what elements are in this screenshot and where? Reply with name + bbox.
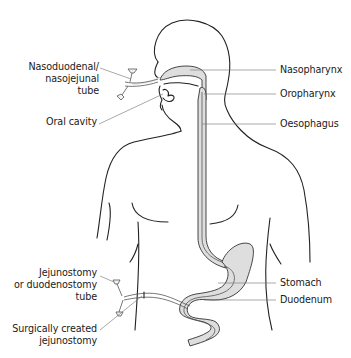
- label-line: Oral cavity: [46, 116, 97, 128]
- right-torso-outline: [266, 218, 272, 330]
- left-torso-outline: [135, 222, 139, 330]
- label-oral-cavity: Oral cavity: [46, 116, 97, 128]
- label-nasoduodenal-tube: Nasoduodenal/ nasojejunal tube: [28, 61, 99, 97]
- palate-line: [164, 83, 198, 86]
- label-line: tube: [14, 291, 97, 303]
- leader-jejunostomy-tube: [100, 276, 114, 282]
- label-line: jejunostomy: [12, 335, 97, 347]
- jejunostomy-connector-top: [113, 280, 120, 284]
- label-line: tube: [28, 85, 99, 97]
- label-line: Nasoduodenal/: [28, 61, 99, 73]
- left-waist-line: [130, 244, 138, 262]
- left-arm-line: [107, 203, 110, 240]
- label-oesophagus: Oesophagus: [280, 118, 339, 130]
- label-jejunostomy-tube: Jejunostomy or duodenostomy tube: [14, 267, 97, 303]
- leader-oral-cavity: [99, 94, 163, 124]
- label-line: Surgically created: [12, 323, 97, 335]
- chin-outline: [162, 105, 181, 131]
- right-chest-outline: [210, 205, 238, 224]
- label-line: Oropharynx: [280, 88, 336, 100]
- nasoduodenal-tube: [117, 69, 160, 100]
- nasal-tube-connector-top: [128, 69, 137, 73]
- nasal-tube-connector-bottom: [117, 94, 124, 100]
- label-line: Jejunostomy: [14, 267, 97, 279]
- jejunostomy-tube: [113, 280, 190, 316]
- label-line: Nasopharynx: [280, 64, 342, 76]
- label-oropharynx: Oropharynx: [280, 88, 336, 100]
- right-waist-line: [270, 244, 281, 264]
- label-line: or duodenostomy: [14, 279, 97, 291]
- left-chest-outline: [132, 203, 168, 222]
- leader-lines: [99, 68, 276, 330]
- label-line: nasojejunal: [28, 73, 99, 85]
- jejunostomy-tube-line: [124, 293, 190, 306]
- label-nasopharynx: Nasopharynx: [280, 64, 342, 76]
- duodenum-inner-line: [184, 266, 235, 340]
- oesophagus: [198, 87, 226, 268]
- label-line: Oesophagus: [280, 118, 339, 130]
- label-line: Duodenum: [280, 294, 332, 306]
- lips-outline: [159, 86, 162, 110]
- label-surgical-jejunostomy: Surgically created jejunostomy: [12, 323, 97, 347]
- face-outline: [155, 62, 160, 78]
- head-outline: [154, 20, 310, 262]
- label-line: Stomach: [280, 277, 322, 289]
- leader-nasoduodenal: [100, 68, 131, 79]
- label-stomach: Stomach: [280, 277, 322, 289]
- tongue-outline: [163, 89, 174, 101]
- label-duodenum: Duodenum: [280, 294, 332, 306]
